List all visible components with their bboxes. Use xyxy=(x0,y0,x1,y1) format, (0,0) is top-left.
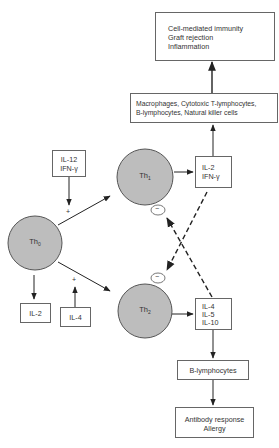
th2-label: Th2 xyxy=(130,305,160,315)
th1-inducers-box: IL-12 IFN-γ xyxy=(52,150,86,177)
b-cells-line: B-lymphocytes xyxy=(178,366,248,375)
effector-cells-line: B-lymphocytes, Natural killer cells xyxy=(136,108,277,117)
th1-cytokine-line: IFN-γ xyxy=(202,172,231,181)
th2-cytokines-box: IL-4 IL-5 IL-10 xyxy=(195,298,232,330)
outcome-th2-box: Antibody response Allergy xyxy=(175,407,254,438)
th2-label-sub: 2 xyxy=(148,309,151,315)
th1-label-base: Th xyxy=(139,171,148,180)
th0-label-sub: 0 xyxy=(38,241,41,247)
outcome-th1-box: Cell-mediated immunity Graft rejection I… xyxy=(155,12,275,61)
plus-sign-th2: + xyxy=(72,276,76,283)
th1-inducer-line: IL-12 xyxy=(53,155,85,164)
effector-cells-box: Macrophages, Cytotoxic T-lymphocytes, B-… xyxy=(130,93,278,123)
b-cells-box: B-lymphocytes xyxy=(177,360,249,380)
plus-sign-th1: + xyxy=(66,208,70,215)
minus-sign-th1: − xyxy=(155,205,159,212)
th1-inducer-line: IFN-γ xyxy=(53,164,85,173)
th2-inducer-box: IL-4 xyxy=(60,307,91,327)
outcome-th1-line: Cell-mediated immunity xyxy=(168,24,274,33)
outcome-th2-line: Allergy xyxy=(176,424,253,433)
inhibit-th1-cytokines-to-th2 xyxy=(167,192,207,270)
th2-label-base: Th xyxy=(139,305,148,314)
th0-label-base: Th xyxy=(29,237,38,246)
th0-product-box: IL-2 xyxy=(20,303,51,323)
th2-inducer-line: IL-4 xyxy=(61,313,90,322)
effector-cells-line: Macrophages, Cytotoxic T-lymphocytes, xyxy=(136,99,277,108)
th2-cytokine-line: IL-10 xyxy=(202,319,231,327)
outcome-th1-line: Inflammation xyxy=(168,42,274,51)
th0-label: Th0 xyxy=(20,237,50,247)
th1-cytokines-box: IL-2 IFN-γ xyxy=(195,156,232,188)
arrow-th0-to-th2 xyxy=(58,262,110,291)
diagram-connectors xyxy=(0,0,279,448)
th1-label: Th1 xyxy=(130,171,160,181)
th0-product-line: IL-2 xyxy=(21,309,50,318)
th1-cytokine-line: IL-2 xyxy=(202,163,231,172)
outcome-th2-line: Antibody response xyxy=(176,415,253,424)
outcome-th1-line: Graft rejection xyxy=(168,33,274,42)
th1-label-sub: 1 xyxy=(148,175,151,181)
minus-sign-th2: − xyxy=(155,273,159,280)
